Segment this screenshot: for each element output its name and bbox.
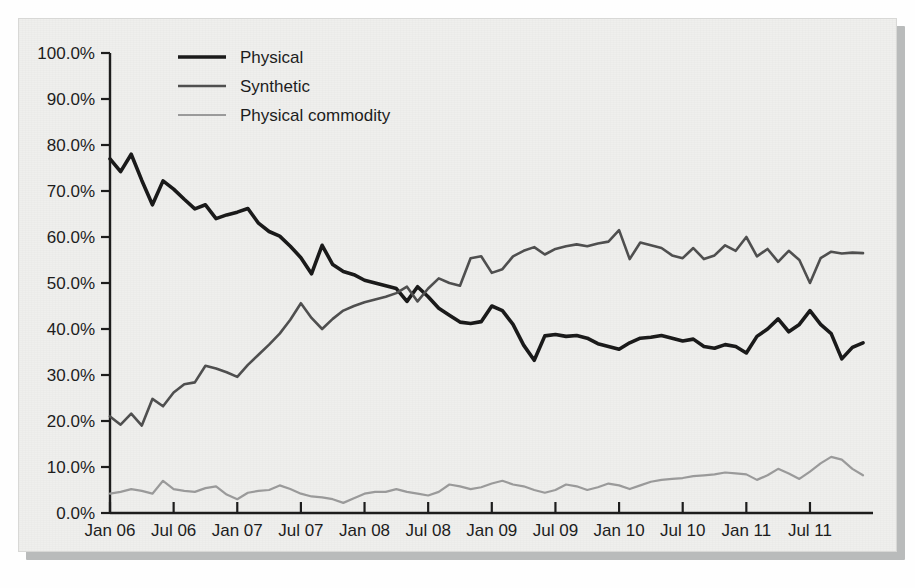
y-axis-tick-label: 100.0% [37, 44, 95, 63]
x-axis-tick-label: Jan 07 [212, 521, 263, 540]
x-axis-tick-label: Jul 08 [405, 521, 450, 540]
legend-label-synthetic: Synthetic [240, 77, 310, 96]
x-axis-tick-label: Jul 10 [660, 521, 705, 540]
x-axis-tick-label: Jul 09 [533, 521, 578, 540]
y-axis-tick-label: 10.0% [47, 458, 95, 477]
line-chart: 0.0%10.0%20.0%30.0%40.0%50.0%60.0%70.0%8… [0, 0, 915, 588]
y-axis-tick-label: 40.0% [47, 320, 95, 339]
series-line-synthetic [110, 230, 863, 426]
x-axis-tick-label: Jul 07 [278, 521, 323, 540]
y-axis-tick-label: 80.0% [47, 136, 95, 155]
x-axis-tick-label: Jan 11 [721, 521, 771, 540]
x-axis-tick-label: Jul 11 [788, 521, 832, 540]
series-line-physical [110, 154, 863, 360]
x-axis-tick-label: Jan 08 [339, 521, 390, 540]
y-axis-tick-label: 60.0% [47, 228, 95, 247]
y-axis-tick-label: 50.0% [47, 274, 95, 293]
y-axis-tick-label: 30.0% [47, 366, 95, 385]
x-axis-tick-label: Jan 06 [84, 521, 135, 540]
x-axis-tick-label: Jan 09 [466, 521, 517, 540]
y-axis-tick-label: 20.0% [47, 412, 95, 431]
y-axis-tick-label: 90.0% [47, 90, 95, 109]
screenshot-page: 0.0%10.0%20.0%30.0%40.0%50.0%60.0%70.0%8… [0, 0, 915, 588]
x-axis-tick-label: Jan 10 [594, 521, 645, 540]
series-line-physical-commodity [110, 457, 863, 503]
legend-label-physical-commodity: Physical commodity [240, 106, 391, 125]
y-axis-tick-label: 70.0% [47, 182, 95, 201]
legend-label-physical: Physical [240, 48, 303, 67]
x-axis-tick-label: Jul 06 [151, 521, 196, 540]
